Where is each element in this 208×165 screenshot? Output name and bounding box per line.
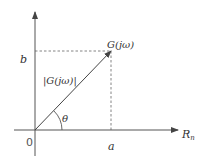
imaginary-value-label: b: [20, 53, 27, 66]
magnitude-label: |G(jω)|: [43, 75, 77, 87]
axis-letter: R: [181, 128, 190, 141]
angle-label: θ: [62, 113, 68, 124]
complex-plane-diagram: 0 b a Rn G(jω) |G(jω)| θ: [0, 0, 208, 165]
origin-label: 0: [26, 136, 33, 149]
axis-subscript: n: [190, 134, 195, 142]
horizontal-axis-label: Rn: [181, 128, 195, 142]
real-value-label: a: [108, 140, 115, 153]
vector-arrow: [35, 51, 111, 130]
angle-arc: [54, 111, 62, 130]
point-label: G(jω): [107, 39, 134, 50]
